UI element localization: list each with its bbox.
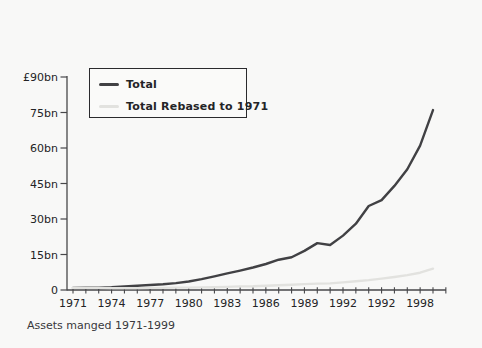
- x-axis-tick-label: 1983: [213, 297, 241, 310]
- x-axis-tick-label: 1989: [290, 297, 318, 310]
- x-axis-tick-label: 1977: [136, 297, 164, 310]
- y-axis-tick-label: 0: [51, 284, 58, 297]
- rebased-line-swatch: [99, 105, 119, 108]
- y-axis-tick-label: 15bn: [30, 249, 58, 262]
- legend-label-total: Total: [126, 78, 157, 91]
- legend-label-rebased: Total Rebased to 1971: [126, 100, 268, 113]
- x-axis-tick-label: 1998: [406, 297, 434, 310]
- chart-caption: Assets manged 1971-1999: [27, 319, 175, 332]
- x-axis-tick-label: 1980: [175, 297, 203, 310]
- legend-item-rebased: Total Rebased to 1971: [99, 96, 246, 116]
- total-line-swatch: [99, 83, 119, 86]
- series-line-total: [73, 110, 433, 288]
- y-axis-tick-label: £90bn: [23, 71, 58, 84]
- x-axis-tick-label: 1986: [252, 297, 280, 310]
- y-axis-tick-label: 60bn: [30, 142, 58, 155]
- x-axis-tick-label: 1992: [329, 297, 357, 310]
- assets-line-chart: £90bn75bn60bn45bn30bn15bn019711974197719…: [0, 0, 482, 348]
- y-axis-tick-label: 75bn: [30, 107, 58, 120]
- x-axis-tick-label: 1971: [59, 297, 87, 310]
- y-axis-tick-label: 45bn: [30, 178, 58, 191]
- chart-page: £90bn75bn60bn45bn30bn15bn019711974197719…: [0, 0, 482, 348]
- y-axis-tick-label: 30bn: [30, 213, 58, 226]
- x-axis-tick-label: 1974: [98, 297, 126, 310]
- chart-legend: Total Total Rebased to 1971: [89, 68, 247, 118]
- x-axis-tick-label: 1992: [368, 297, 396, 310]
- legend-item-total: Total: [99, 75, 246, 95]
